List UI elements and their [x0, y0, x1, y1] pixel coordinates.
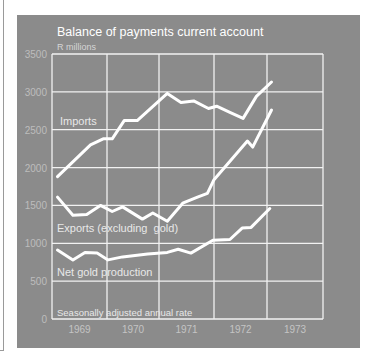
- y-tick-label: 1000: [25, 238, 48, 249]
- y-tick-label: 3500: [25, 49, 48, 60]
- y-tick-label: 3000: [25, 87, 48, 98]
- y-tick-label: 1500: [25, 200, 48, 211]
- x-tick-label: 1972: [229, 324, 252, 335]
- x-tick-label: 1971: [175, 324, 198, 335]
- line-chart: Balance of payments current account R mi…: [0, 0, 369, 362]
- y-tick-label: 2500: [25, 125, 48, 136]
- x-tick-label: 1970: [122, 324, 145, 335]
- y-axis-unit-label: R millions: [57, 42, 97, 52]
- y-tick-label: 2000: [25, 163, 48, 174]
- series-label-net-gold: Net gold production: [57, 266, 152, 278]
- series-label-exports: Exports (excluding gold): [57, 222, 178, 234]
- y-axis-ticks: 0500100015002000250030003500: [25, 49, 48, 325]
- series-line-net-gold-production: [58, 209, 270, 260]
- grid: [52, 54, 323, 319]
- x-tick-label: 1969: [68, 324, 91, 335]
- chart-title: Balance of payments current account: [57, 25, 264, 39]
- x-tick-label: 1973: [284, 324, 307, 335]
- y-tick-label: 500: [30, 276, 47, 287]
- chart-note: Seasonally adjusted annual rate: [57, 307, 192, 318]
- series-label-imports: Imports: [60, 115, 97, 127]
- y-tick-label: 0: [41, 314, 47, 325]
- x-axis-ticks: 19691970197119721973: [68, 324, 306, 335]
